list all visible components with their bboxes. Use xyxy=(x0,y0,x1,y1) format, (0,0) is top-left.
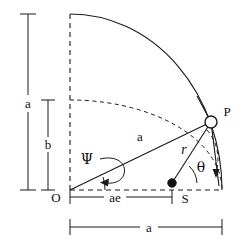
ellipse-orbit-diagram: a b a r θ xyxy=(0,0,252,245)
dimension-a-bottom: a xyxy=(70,219,222,235)
dimension-a-left: a xyxy=(20,14,36,190)
ray-P-to-axis xyxy=(211,122,219,186)
label-a-left: a xyxy=(25,96,31,111)
label-a-inner: a xyxy=(137,129,143,144)
label-P: P xyxy=(223,104,230,119)
label-psi: Ψ xyxy=(81,151,93,167)
label-b-left: b xyxy=(45,137,52,152)
label-theta: θ xyxy=(197,159,205,175)
label-a-bottom: a xyxy=(146,220,152,235)
label-r: r xyxy=(181,142,187,157)
label-ae: ae xyxy=(109,190,121,205)
dimension-b-left: b xyxy=(41,100,55,190)
theta-sweep-arrowhead xyxy=(213,169,220,178)
ellipse-arc xyxy=(70,100,222,190)
dimension-ae: ae xyxy=(70,190,172,205)
label-O: O xyxy=(51,190,60,205)
focus-point-S xyxy=(168,179,176,187)
figure-canvas: a b a r θ xyxy=(0,0,252,245)
orbiting-point-P xyxy=(205,116,217,128)
label-S: S xyxy=(181,191,188,206)
